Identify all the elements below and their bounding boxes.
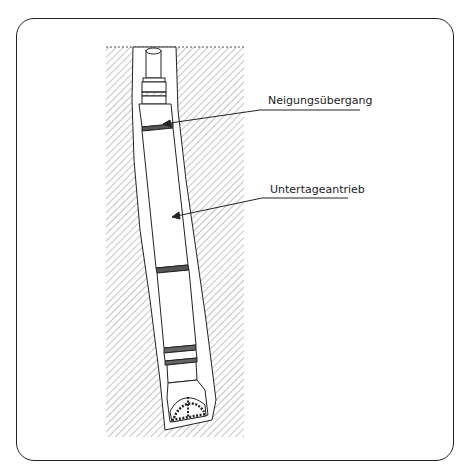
drill-pipe xyxy=(146,48,161,78)
label-bent-sub: Neigungsübergang xyxy=(268,94,372,107)
label-downhole-motor: Untertageantrieb xyxy=(270,183,365,196)
drilling-assembly-diagram xyxy=(0,0,470,474)
